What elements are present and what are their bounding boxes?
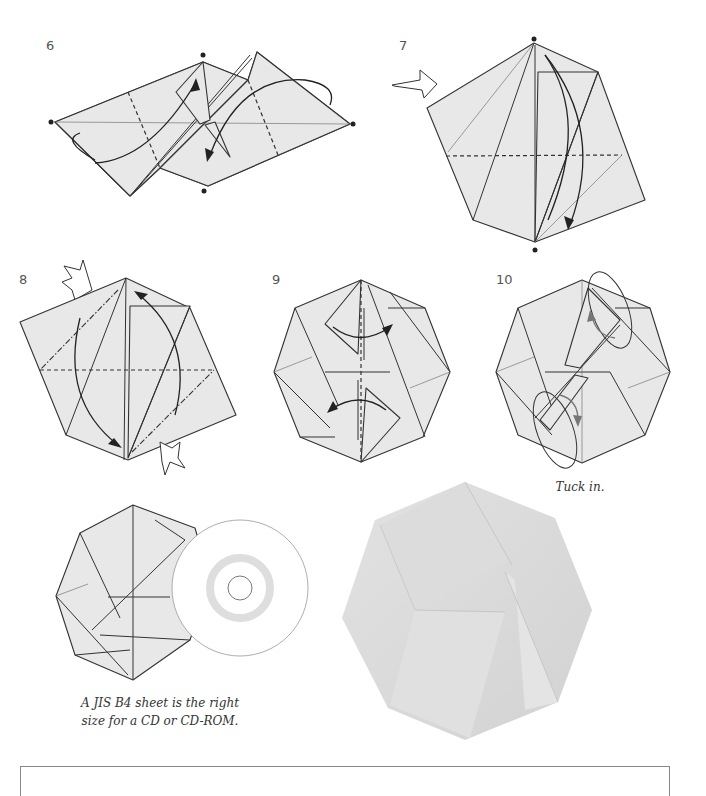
- note-box: [20, 766, 670, 796]
- step-9-diagram: [250, 230, 470, 480]
- step-6-diagram: [0, 0, 360, 230]
- finished-model-photo: [330, 470, 660, 750]
- squash-arrow-icon: [160, 442, 185, 475]
- step-10-diagram: [460, 230, 706, 500]
- step-7-diagram: [380, 20, 680, 260]
- cd-disc-icon: [172, 520, 308, 656]
- cd-caption-line-2: size for a CD or CD-ROM.: [60, 712, 260, 730]
- turn-over-arrow-icon: [392, 70, 437, 98]
- cd-caption-line-1: A JIS B4 sheet is the right: [60, 694, 260, 712]
- step-8-diagram: [0, 230, 250, 480]
- cd-size-comparison-diagram: [40, 490, 330, 690]
